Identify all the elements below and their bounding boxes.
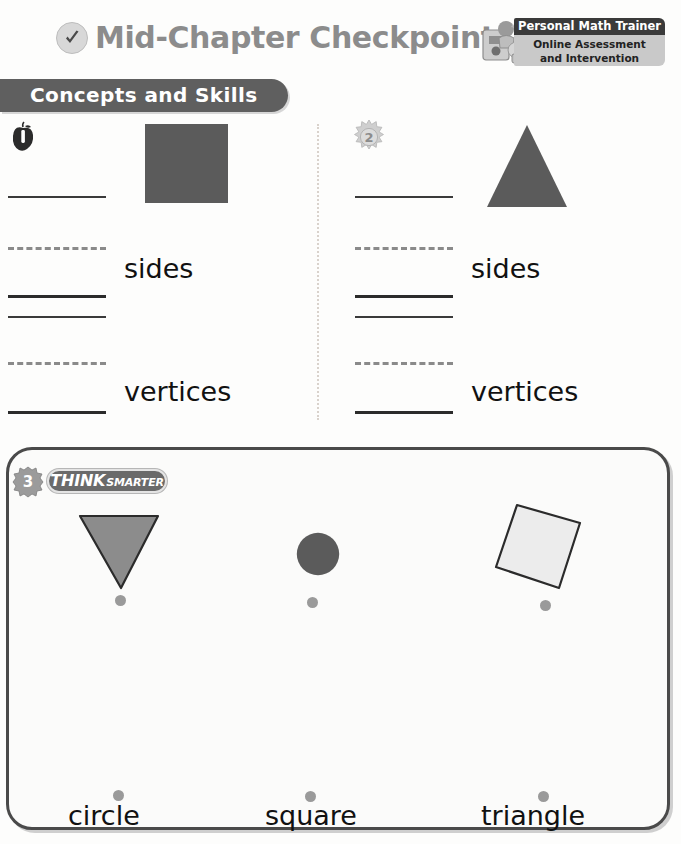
q1-line-5-dashed — [8, 362, 106, 365]
q1-line-4 — [8, 316, 106, 318]
think-smarter-think-label: THINK — [50, 471, 105, 490]
shape-circle[interactable] — [296, 532, 340, 576]
trainer-badge-title: Personal Math Trainer — [514, 18, 665, 35]
q2-line-6 — [355, 411, 453, 414]
leaf-number-icon: 3 — [12, 466, 44, 498]
trainer-badge-line2: and Intervention — [514, 51, 665, 65]
checkmark-circle-icon — [56, 22, 88, 54]
personal-math-trainer-badge[interactable]: Personal Math Trainer Online Assessment … — [479, 18, 665, 68]
question-2-triangle-shape — [486, 124, 568, 208]
svg-text:2: 2 — [364, 130, 373, 145]
q1-sides-label: sides — [124, 253, 193, 284]
title-row: Mid-Chapter Checkpoint — [56, 20, 495, 55]
q2-line-1 — [355, 196, 453, 198]
sunburst-number-icon: 2 — [352, 120, 386, 154]
shape-triangle-down[interactable] — [78, 514, 160, 590]
think-smarter-smarter-label: SMARTER — [106, 476, 163, 489]
trainer-badge-body: Online Assessment and Intervention — [514, 35, 665, 66]
q1-vertices-label: vertices — [124, 376, 231, 407]
connector-dot-circle-shape[interactable] — [307, 597, 318, 608]
page-header: Mid-Chapter Checkpoint Personal Math Tra… — [0, 0, 681, 76]
q1-line-2-dashed — [8, 247, 106, 250]
shape-square-tilted[interactable] — [492, 501, 584, 593]
q1-line-1 — [8, 196, 106, 198]
q2-line-3 — [355, 295, 453, 298]
q2-line-4 — [355, 316, 453, 318]
word-label-square[interactable]: square — [265, 800, 357, 831]
page-title: Mid-Chapter Checkpoint — [95, 20, 495, 55]
word-label-triangle[interactable]: triangle — [481, 800, 585, 831]
think-smarter-number: 3 — [23, 473, 33, 491]
word-label-circle[interactable]: circle — [68, 800, 140, 831]
column-divider — [317, 124, 319, 420]
q1-line-6 — [8, 411, 106, 414]
q2-sides-label: sides — [471, 253, 540, 284]
q2-line-5-dashed — [355, 362, 453, 365]
banner-label: Concepts and Skills — [30, 79, 258, 112]
question-1-square-shape — [145, 124, 228, 203]
q2-vertices-label: vertices — [471, 376, 578, 407]
connector-dot-square-shape[interactable] — [540, 600, 551, 611]
worksheet-page: Mid-Chapter Checkpoint Personal Math Tra… — [0, 0, 681, 844]
think-smarter-badge: THINK SMARTER — [47, 469, 167, 493]
trainer-badge-line1: Online Assessment — [514, 37, 665, 51]
connector-dot-triangle-shape[interactable] — [115, 595, 126, 606]
q2-line-2-dashed — [355, 247, 453, 250]
concepts-and-skills-banner: Concepts and Skills — [0, 79, 288, 112]
q1-line-3 — [8, 295, 106, 298]
apple-number-icon — [6, 120, 40, 154]
